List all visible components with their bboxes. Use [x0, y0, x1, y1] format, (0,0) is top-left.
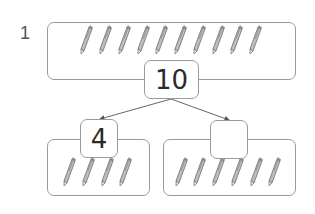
- pencil-icon: [231, 26, 243, 54]
- pencil-icon: [213, 26, 225, 54]
- pencil-icon: [64, 158, 76, 186]
- part-left-number-box: 4: [80, 119, 118, 158]
- pencil-icon: [102, 158, 114, 186]
- pencil-icon: [194, 26, 206, 54]
- whole-pencils: [81, 26, 262, 54]
- pencil-icon: [213, 158, 225, 186]
- part-right-answer-box[interactable]: [210, 120, 248, 159]
- pencil-icon: [269, 158, 281, 186]
- arrow-right-icon: [171, 99, 229, 120]
- pencil-icon: [156, 26, 168, 54]
- pencil-icon: [81, 26, 93, 54]
- pencil-icon: [251, 158, 263, 186]
- right-part-pencils: [176, 158, 281, 186]
- pencil-icon: [194, 158, 206, 186]
- whole-number-box: 10: [144, 60, 199, 99]
- pencil-icon: [250, 26, 262, 54]
- pencils-and-arrows: [0, 0, 315, 214]
- pencil-icon: [83, 158, 95, 186]
- pencil-icon: [176, 158, 188, 186]
- whole-value: 10: [155, 65, 188, 95]
- arrow-left-icon: [100, 99, 171, 119]
- part-left-value: 4: [91, 124, 108, 154]
- pencil-icon: [120, 158, 132, 186]
- left-part-pencils: [64, 158, 132, 186]
- pencil-icon: [175, 26, 187, 54]
- pencil-icon: [138, 26, 150, 54]
- pencil-icon: [232, 158, 244, 186]
- pencil-icon: [119, 26, 131, 54]
- pencil-icon: [100, 26, 112, 54]
